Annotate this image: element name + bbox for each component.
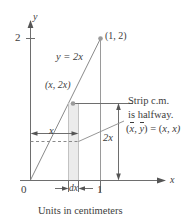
cm-equals: ) = ( xyxy=(144,123,162,134)
x-axis-arrowhead xyxy=(157,178,166,184)
y-axis-label: y xyxy=(33,12,37,22)
x-axis-label: x xyxy=(170,175,174,185)
height-dimension-arrow-top xyxy=(116,103,121,110)
annotation-leader-line xyxy=(79,121,125,142)
figure-caption: Units in centimeters xyxy=(38,206,123,217)
strip-cm-annotation-line1: Strip c.m. xyxy=(128,96,169,107)
equation-label: y = 2x xyxy=(56,52,83,63)
height-dimension-label: 2x xyxy=(103,133,113,144)
height-dimension-arrow-bottom xyxy=(116,174,121,181)
center-of-mass-diagram: y x 2 0 1 y = 2x (x, 2x) (1, 2) 2x x dx … xyxy=(0,0,189,224)
strip-cm-annotation-line2: is halfway. xyxy=(128,110,173,121)
strip-top-point-marker xyxy=(71,101,76,106)
width-dimension-label: x xyxy=(49,126,54,137)
cm-value: x, x) xyxy=(162,123,180,134)
y-bar-symbol: y xyxy=(139,124,144,135)
width-dimension-arrow-left xyxy=(31,131,38,136)
y-tick-label-2: 2 xyxy=(15,32,21,43)
x-tick-label-1: 1 xyxy=(97,184,103,195)
x-bar-symbol: x xyxy=(130,124,135,135)
strip-cm-annotation-line3: (x, y) = (x, x) xyxy=(126,124,180,135)
strip-top-point-label: (x, 2x) xyxy=(45,80,71,90)
element-width-label: dx xyxy=(69,184,78,194)
dx-arrow-right-head xyxy=(79,186,86,190)
origin-label: 0 xyxy=(21,184,27,195)
endpoint-marker xyxy=(98,36,103,41)
dx-arrow-left-head xyxy=(62,186,69,190)
endpoint-label: (1, 2) xyxy=(105,31,127,41)
